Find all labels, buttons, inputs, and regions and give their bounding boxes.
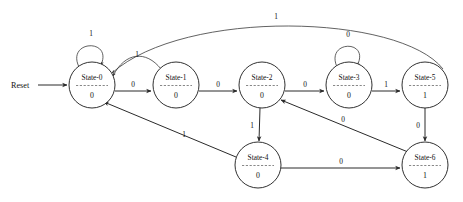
state-name-label: State-1 [166, 73, 187, 82]
state-name-label: State-5 [415, 73, 436, 82]
edge-label-state1-state2: 0 [216, 80, 220, 89]
transition-state2-state4 [259, 108, 260, 141]
state-circle [235, 142, 281, 188]
edge-label-state0-state1: 0 [131, 80, 135, 89]
state-node-state-5[interactable]: State-5 1 [402, 62, 448, 108]
state-node-state-6[interactable]: State-6 1 [402, 142, 448, 188]
state-name-label: State-4 [248, 153, 269, 162]
state-node-state-3[interactable]: State-3 0 [326, 62, 372, 108]
state-name-label: State-2 [252, 73, 273, 82]
state-node-state-2[interactable]: State-2 0 [239, 62, 285, 108]
transition-state4-state0 [104, 102, 236, 157]
state-node-state-0[interactable]: State-0 0 [69, 62, 115, 108]
edge-label-state5-state6: 0 [416, 121, 420, 130]
state-name-label: State-6 [415, 153, 436, 162]
state-circle [69, 62, 115, 108]
edge-label-state4-state0: 1 [182, 130, 186, 139]
edge-label-state1-state0: 1 [135, 50, 139, 59]
state-circle [153, 62, 199, 108]
state-output-label: 0 [256, 171, 260, 180]
edge-label-state3-self: 0 [346, 30, 350, 39]
edge-label-state2-state4: 1 [250, 121, 254, 130]
state-output-label: 1 [423, 171, 427, 180]
edge-label-state2-state3: 0 [303, 80, 307, 89]
reset-label: Reset [11, 81, 30, 90]
edge-label-state4-state6: 0 [339, 157, 343, 166]
state-output-label: 0 [347, 91, 351, 100]
state-circle [239, 62, 285, 108]
state-output-label: 0 [174, 91, 178, 100]
state-circle [402, 62, 448, 108]
state-output-label: 1 [423, 91, 427, 100]
state-output-label: 0 [260, 91, 264, 100]
edge-label-state6-state2: 0 [341, 115, 345, 124]
state-node-state-1[interactable]: State-1 0 [153, 62, 199, 108]
state-name-label: State-0 [82, 73, 103, 82]
transition-state5-state0 [112, 26, 443, 73]
state-output-label: 0 [90, 91, 94, 100]
state-name-label: State-3 [339, 73, 360, 82]
edge-label-state0-self: 1 [89, 29, 93, 38]
edge-label-state5-state0: 1 [274, 12, 278, 21]
state-diagram-canvas: Reset 1 0 1 0 0 1 [0, 0, 463, 202]
state-circle [326, 62, 372, 108]
state-machine-diagram: Reset 1 0 1 0 0 1 [0, 0, 463, 202]
edge-label-state3-state5: 1 [384, 80, 388, 89]
state-circle [402, 142, 448, 188]
state-node-state-4[interactable]: State-4 0 [235, 142, 281, 188]
